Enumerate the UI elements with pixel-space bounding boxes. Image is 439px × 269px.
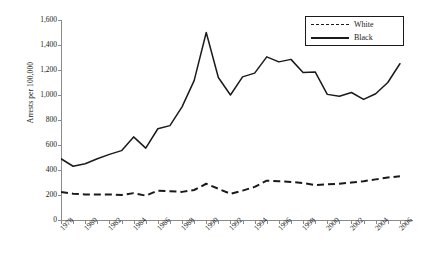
series-canvas (61, 20, 412, 221)
y-tick-mark (58, 145, 61, 146)
plot-area (61, 20, 412, 220)
y-tick-label: 400 (17, 166, 57, 174)
legend-item-black: Black (311, 31, 401, 44)
series-line-black (61, 33, 400, 167)
y-tick-label: 1,200 (17, 66, 57, 74)
y-tick-mark (58, 195, 61, 196)
y-tick-label: 1,600 (17, 16, 57, 24)
legend-label-black: Black (354, 32, 373, 43)
y-tick-mark (58, 170, 61, 171)
y-tick-label: 800 (17, 116, 57, 124)
legend-swatch-solid-icon (311, 37, 349, 39)
y-tick-mark (58, 120, 61, 121)
y-tick-mark (58, 95, 61, 96)
legend-swatch-dashed-icon (311, 24, 349, 25)
y-tick-mark (58, 70, 61, 71)
series-line-white (61, 176, 400, 195)
chart-figure: Arrests per 100,000 1,6001,4001,2001,000… (0, 0, 439, 269)
y-tick-mark (58, 20, 61, 21)
chart-legend: White Black (305, 16, 404, 46)
y-tick-label: 1,000 (17, 91, 57, 99)
y-tick-mark (58, 220, 61, 221)
legend-item-white: White (311, 18, 401, 31)
y-tick-mark (58, 45, 61, 46)
y-axis-tick-labels: 1,6001,4001,2001,0008006004002000 (13, 0, 57, 269)
y-tick-label: 0 (17, 216, 57, 224)
y-tick-label: 600 (17, 141, 57, 149)
legend-label-white: White (354, 19, 374, 30)
y-tick-label: 200 (17, 191, 57, 199)
y-tick-label: 1,400 (17, 41, 57, 49)
